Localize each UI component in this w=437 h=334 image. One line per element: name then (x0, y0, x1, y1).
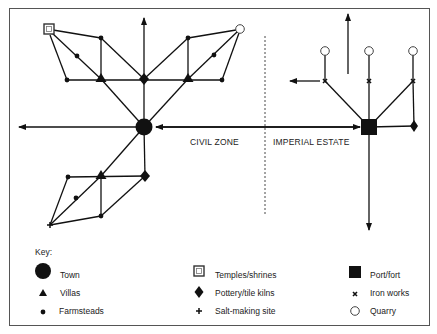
farmstead-icon (75, 54, 80, 59)
farmstead-icon (99, 214, 104, 219)
farmstead-icon (212, 53, 217, 58)
farmstead-icon (220, 78, 225, 83)
farmstead-icon (186, 36, 191, 41)
pottery-kiln-icon (410, 120, 418, 132)
quarry-icon (321, 47, 330, 56)
quarry-icon (409, 47, 418, 56)
town-icon (35, 263, 51, 279)
iron-works-icon (353, 292, 357, 296)
farmstead-icon (65, 78, 70, 83)
town-icon (136, 119, 153, 136)
quarry-icon (365, 47, 374, 56)
quarry-icon (236, 25, 245, 34)
flow-arrows (19, 14, 369, 230)
key-item-town: Town (60, 270, 80, 280)
villa-icon (39, 289, 47, 296)
key-item-villas: Villas (60, 288, 80, 298)
key-item-port-fort: Port/fort (370, 270, 400, 280)
key-item-pottery-kilns: Pottery/tile kilns (215, 288, 275, 298)
imperial-estate-label: IMPERIAL ESTATE (273, 137, 350, 147)
key-title: Key: (35, 247, 52, 257)
villa-icon (183, 73, 194, 82)
pottery-kiln-icon (195, 286, 204, 298)
key-item-temples: Temples/shrines (215, 270, 276, 280)
quarry-icon (351, 307, 360, 316)
farmstead-icon (99, 36, 104, 41)
farmstead-icon (41, 310, 46, 315)
villa-icon (96, 73, 107, 82)
settlement-network-diagram (0, 0, 437, 334)
key-item-salt-making: Salt-making site (215, 306, 275, 316)
farmstead-icon (66, 175, 71, 180)
civil-zone-label: CIVIL ZONE (190, 137, 239, 147)
key-item-iron-works: Iron works (370, 288, 409, 298)
key-item-farmsteads: Farmsteads (59, 306, 104, 316)
port-fort-icon (349, 266, 361, 278)
salt-making-site-icon (196, 308, 202, 314)
pottery-kiln-icon (140, 170, 150, 182)
farmstead-icon (74, 196, 79, 201)
port-fort-icon (361, 119, 377, 135)
quarry-icons (236, 25, 418, 56)
temple-icon (44, 24, 54, 34)
key-item-quarry: Quarry (370, 306, 396, 316)
